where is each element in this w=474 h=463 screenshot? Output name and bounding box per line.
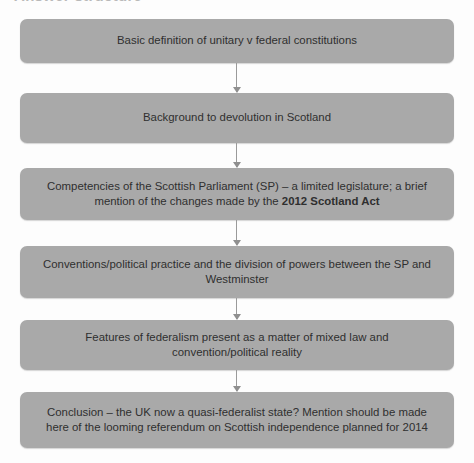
flow-connector-5 bbox=[236, 370, 238, 391]
flow-node-2: Background to devolution in Scotland bbox=[20, 93, 454, 143]
flow-node-5: Features of federalism present as a matt… bbox=[20, 320, 454, 370]
flow-node-4-label: Conventions/political practice and the d… bbox=[42, 257, 432, 288]
flow-node-5-label: Features of federalism present as a matt… bbox=[42, 330, 432, 361]
flow-node-6: Conclusion – the UK now a quasi-federali… bbox=[20, 392, 454, 448]
flow-connector-4 bbox=[236, 298, 238, 319]
flow-connector-3 bbox=[236, 220, 238, 245]
flow-node-4: Conventions/political practice and the d… bbox=[20, 246, 454, 298]
flow-node-1: Basic definition of unitary v federal co… bbox=[20, 19, 454, 63]
flow-node-3: Competencies of the Scottish Parliament … bbox=[20, 168, 454, 220]
flow-node-3-label: Competencies of the Scottish Parliament … bbox=[42, 179, 432, 210]
flow-connector-1 bbox=[236, 63, 238, 92]
flowchart-diagram: Basic definition of unitary v federal co… bbox=[0, 0, 474, 463]
flow-connector-2 bbox=[236, 143, 238, 167]
flow-node-2-label: Background to devolution in Scotland bbox=[42, 110, 432, 126]
flowchart-page: Answer structure Basic definition of uni… bbox=[0, 0, 474, 463]
flow-node-6-label: Conclusion – the UK now a quasi-federali… bbox=[42, 405, 432, 436]
flow-node-1-label: Basic definition of unitary v federal co… bbox=[42, 33, 432, 49]
flow-node-3-label-emphasis: 2012 Scotland Act bbox=[282, 195, 380, 207]
